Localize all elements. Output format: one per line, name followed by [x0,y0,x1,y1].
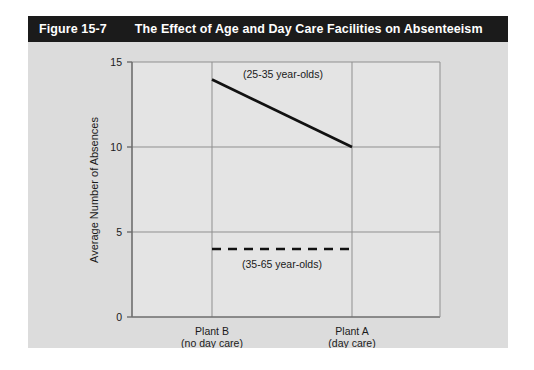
ytick-label-15: 15 [110,56,122,68]
ytick-label-0: 0 [116,311,122,323]
y-axis-title: Average Number of Absences [88,117,100,263]
xtick-sublabel-plant-a: (day care) [328,337,375,348]
figure-header-bar: Figure 15-7 The Effect of Age and Day Ca… [28,16,508,42]
ytick-label-10: 10 [110,141,122,153]
xtick-label-plant-b: Plant B [195,325,229,337]
xtick-label-plant-a: Plant A [335,325,368,337]
annotation-older-label: (35-65 year-olds) [242,258,322,270]
plot-background [132,62,440,317]
figure-title-label: The Effect of Age and Day Care Facilitie… [135,22,483,36]
figure-number-label: Figure 15-7 [39,22,107,36]
chart-plot-area: 15 10 5 0 Average Number of Absences (25… [28,42,508,348]
xtick-sublabel-plant-b: (no day care) [181,337,243,348]
figure-card: Figure 15-7 The Effect of Age and Day Ca… [28,16,508,348]
absenteeism-line-chart: 15 10 5 0 Average Number of Absences (25… [28,42,508,348]
annotation-young-label: (25-35 year-olds) [243,68,323,80]
ytick-label-5: 5 [116,226,122,238]
